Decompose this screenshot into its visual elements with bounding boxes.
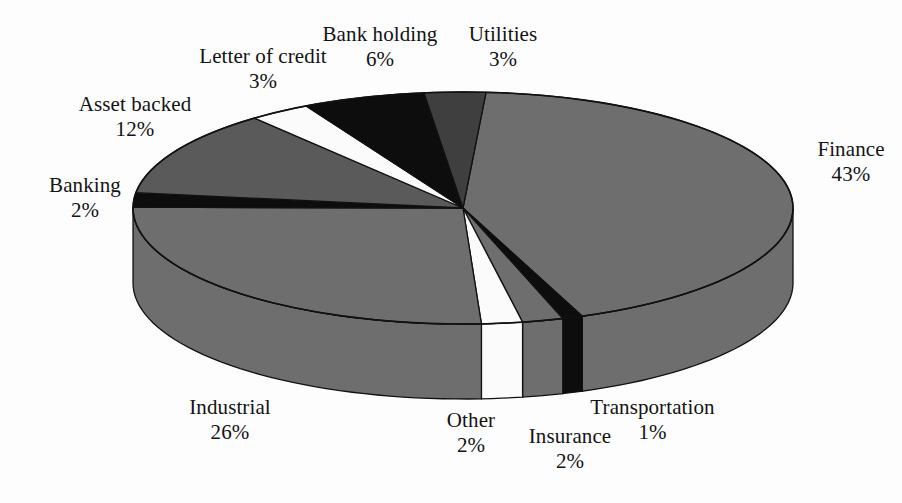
slice-label-value: 2%	[426, 433, 516, 458]
pie-side-other	[481, 322, 522, 399]
slice-label-value: 26%	[150, 420, 310, 445]
slice-label-transportation: Transportation 1%	[560, 395, 745, 445]
pie-top-face	[133, 92, 793, 324]
slice-label-value: 12%	[55, 117, 215, 142]
slice-label-value: 1%	[560, 420, 745, 445]
slice-label-finance: Finance 43%	[800, 137, 902, 187]
slice-label-utilities: Utilities 3%	[443, 22, 563, 72]
pie-chart-figure: Bank holding 6% Utilities 3% Letter of c…	[0, 0, 902, 503]
slice-label-name: Finance	[800, 137, 902, 162]
slice-label-name: Utilities	[443, 22, 563, 47]
slice-label-name: Other	[426, 408, 516, 433]
slice-label-asset-backed: Asset backed 12%	[55, 92, 215, 142]
slice-label-value: 3%	[443, 47, 563, 72]
pie-side-insurance	[523, 319, 563, 398]
slice-label-name: Asset backed	[55, 92, 215, 117]
slice-label-name: Banking	[25, 173, 145, 198]
slice-label-value: 43%	[800, 162, 902, 187]
slice-label-name: Industrial	[150, 395, 310, 420]
slice-label-other: Other 2%	[426, 408, 516, 458]
slice-label-industrial: Industrial 26%	[150, 395, 310, 445]
slice-label-banking: Banking 2%	[25, 173, 145, 223]
slice-label-name: Letter of credit	[183, 44, 343, 69]
slice-label-name: Transportation	[560, 395, 745, 420]
slice-label-letter-of-credit: Letter of credit 3%	[183, 44, 343, 94]
slice-label-value: 2%	[505, 449, 635, 474]
pie-side-transportation	[563, 316, 583, 393]
slice-label-value: 3%	[183, 69, 343, 94]
slice-label-value: 2%	[25, 198, 145, 223]
